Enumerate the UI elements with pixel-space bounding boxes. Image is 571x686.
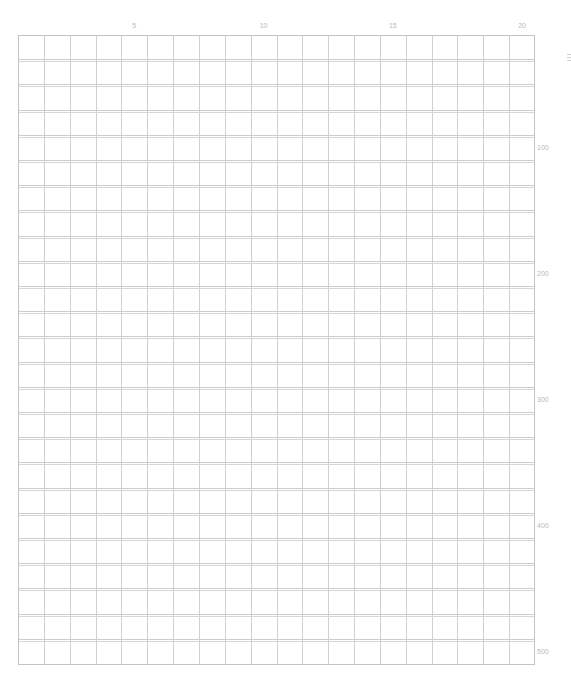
grid-horizontal-line — [19, 261, 534, 264]
grid-horizontal-line — [19, 160, 534, 163]
grid-horizontal-line — [19, 210, 534, 213]
column-label: 15 — [389, 22, 397, 30]
grid-vertical-line — [121, 36, 122, 664]
grid-vertical-line — [96, 36, 97, 664]
row-label: 400 — [537, 522, 549, 530]
grid-horizontal-line — [19, 588, 534, 591]
grid-vertical-line — [44, 36, 45, 664]
grid-horizontal-line — [19, 563, 534, 566]
grid-vertical-line — [277, 36, 278, 664]
grid-vertical-line — [70, 36, 71, 664]
grid-vertical-line — [354, 36, 355, 664]
grid-horizontal-line — [19, 462, 534, 465]
grid-vertical-line — [457, 36, 458, 664]
row-label: 300 — [537, 396, 549, 404]
grid-horizontal-line — [19, 387, 534, 390]
grid-horizontal-line — [19, 538, 534, 541]
grid-horizontal-line — [19, 135, 534, 138]
grid-horizontal-line — [19, 236, 534, 239]
grid-horizontal-line — [19, 311, 534, 314]
grid-horizontal-line — [19, 59, 534, 62]
grid-vertical-line — [225, 36, 226, 664]
row-label: 500 — [537, 648, 549, 656]
grid-horizontal-line — [19, 437, 534, 440]
grid-paper — [18, 35, 535, 665]
grid-horizontal-line — [19, 412, 534, 415]
grid-vertical-line — [509, 36, 510, 664]
grid-horizontal-line — [19, 84, 534, 87]
grid-horizontal-line — [19, 336, 534, 339]
grid-horizontal-line — [19, 614, 534, 617]
grid-vertical-line — [199, 36, 200, 664]
grid-vertical-line — [483, 36, 484, 664]
grid-horizontal-line — [19, 185, 534, 188]
grid-horizontal-line — [19, 639, 534, 642]
grid-vertical-line — [406, 36, 407, 664]
row-label: 100 — [537, 144, 549, 152]
grid-vertical-line — [173, 36, 174, 664]
grid-horizontal-line — [19, 286, 534, 289]
column-label: 20 — [518, 22, 526, 30]
grid-horizontal-line — [19, 362, 534, 365]
grid-vertical-line — [302, 36, 303, 664]
grid-vertical-line — [251, 36, 252, 664]
grid-horizontal-line — [19, 513, 534, 516]
column-label: 5 — [132, 22, 136, 30]
column-label: 10 — [260, 22, 268, 30]
menu-icon — [567, 54, 571, 64]
grid-vertical-line — [147, 36, 148, 664]
grid-horizontal-line — [19, 110, 534, 113]
grid-vertical-line — [380, 36, 381, 664]
grid-horizontal-line — [19, 488, 534, 491]
row-label: 200 — [537, 270, 549, 278]
grid-vertical-line — [432, 36, 433, 664]
grid-vertical-line — [328, 36, 329, 664]
